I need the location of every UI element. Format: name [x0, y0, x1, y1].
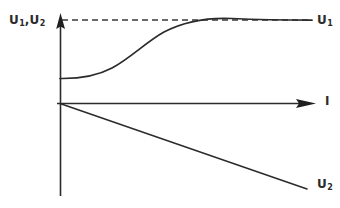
figure-container: U1,U2 U1 U2 I [0, 0, 340, 208]
y-axis-label-sub-1: 1 [19, 19, 25, 28]
x-axis-label: I [325, 95, 330, 107]
series-label-u2-base: U [317, 177, 327, 191]
x-axis-arrowhead [296, 99, 316, 108]
series-label-u1: U1 [317, 14, 333, 26]
y-axis-label-u-first: U [9, 13, 19, 27]
y-axis-label: U1,U2 [9, 14, 45, 26]
series-label-u1-base: U [317, 13, 327, 27]
series-line-u2 [60, 104, 307, 190]
y-axis-label-u-second: U [30, 13, 40, 27]
series-line-u1 [60, 18, 312, 78]
series-label-u2-sub: 2 [327, 183, 333, 192]
series-label-u1-sub: 1 [327, 19, 333, 28]
chart-plot-area [0, 0, 340, 208]
y-axis-label-sub-2: 2 [40, 19, 46, 28]
series-label-u2: U2 [317, 178, 333, 190]
